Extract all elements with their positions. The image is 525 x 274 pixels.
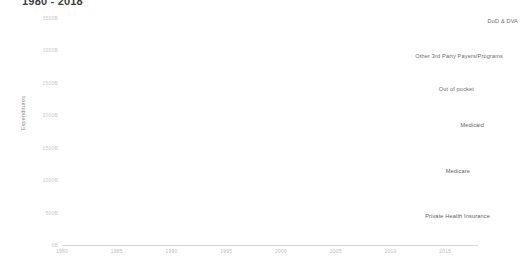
x-tick-label: 1985 xyxy=(111,248,123,254)
x-tick-label: 1980 xyxy=(56,248,68,254)
x-tick-label: 1995 xyxy=(220,248,232,254)
x-tick-label: 1990 xyxy=(166,248,178,254)
series-label-oop: Out of pocket xyxy=(439,86,474,92)
y-tick-label: 1000B xyxy=(12,177,58,183)
series-label-medicaid: Medicaid xyxy=(460,122,484,128)
y-tick-label: 2500B xyxy=(12,80,58,86)
x-tick-label: 2000 xyxy=(275,248,287,254)
y-axis-ticks: 0B500B1000B1500B2000B2500B3000B3500B xyxy=(0,18,58,245)
y-tick-label: 500B xyxy=(12,210,58,216)
series-label-medicare: Medicare xyxy=(446,168,470,174)
x-axis-line xyxy=(62,245,478,246)
y-tick-label: 0B xyxy=(12,242,58,248)
y-tick-label: 3000B xyxy=(12,47,58,53)
y-tick-label: 1500B xyxy=(12,145,58,151)
y-tick-label: 2000B xyxy=(12,112,58,118)
series-label-private: Private Health Insurance xyxy=(425,213,490,219)
x-tick-label: 2010 xyxy=(384,248,396,254)
x-tick-label: 2015 xyxy=(439,248,451,254)
chart-root: 1980 - 2018 Expenditures 0B500B1000B1500… xyxy=(0,0,525,274)
x-axis-ticks: 19801985199019952000200520102015 xyxy=(62,248,478,262)
y-tick-label: 3500B xyxy=(12,15,58,21)
chart-title: 1980 - 2018 xyxy=(22,0,83,7)
series-label-dod: DoD & DVA xyxy=(488,18,518,24)
series-label-other: Other 3rd Party Payers/Programs xyxy=(415,53,503,59)
x-tick-label: 2005 xyxy=(330,248,342,254)
